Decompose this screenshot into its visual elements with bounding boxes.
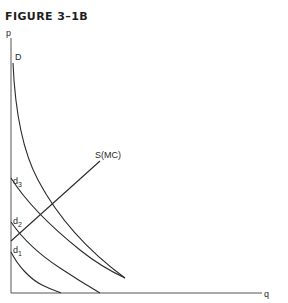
label-d3: d3	[13, 176, 22, 188]
label-S-MC: S(MC)	[95, 150, 121, 160]
demand-curve-d3	[11, 178, 125, 278]
demand-curve-D	[13, 63, 125, 278]
y-axis-label: p	[6, 28, 11, 38]
label-d1: d1	[13, 245, 22, 257]
demand-curve-d2	[11, 222, 100, 293]
chart-plot: p q D d3 d2 d1 S(MC)	[0, 0, 288, 303]
label-D: D	[15, 52, 22, 62]
x-axis-label: q	[264, 289, 269, 299]
demand-curve-d1	[11, 252, 61, 293]
